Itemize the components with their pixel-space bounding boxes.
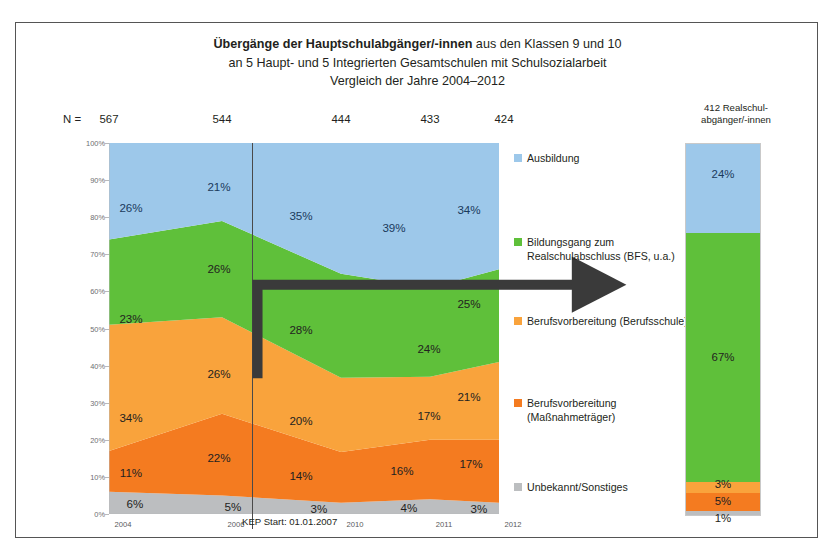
y-tick-mark-10: [105, 477, 109, 478]
area-chart-plot: 100% 90% 80% 70% 60% 50% 40% 30% 20% 10%…: [94, 128, 514, 528]
chart-frame: Übergänge der Hauptschulabgänger/-innen …: [15, 22, 818, 538]
secondary-bar-heading-line-2: abgänger/-innen: [671, 114, 801, 126]
legend-label-massnahmetraeger: Berufsvorbereitung (Maßnahmeträger): [527, 396, 689, 424]
y-tick-20: 20%: [90, 435, 105, 444]
secondary-label-ausbildung: 24%: [686, 168, 760, 180]
value-label-bildungsgang-2004: 23%: [119, 312, 142, 325]
legend-label-unbekannt: Unbekannt/Sonstiges: [527, 480, 628, 494]
n-value-2010: 444: [316, 113, 366, 125]
y-tick-mark-70: [105, 254, 109, 255]
legend-item-bildungsgang[interactable]: Bildungsgang zum Realschulabschluss (BFS…: [514, 235, 689, 263]
y-tick-mark-60: [105, 291, 109, 292]
n-value-2004: 567: [84, 113, 134, 125]
secondary-stacked-bar: 24% 67% 3% 5% 1%: [685, 143, 761, 516]
y-tick-50: 50%: [90, 324, 105, 333]
y-tick-30: 30%: [90, 398, 105, 407]
y-tick-mark-20: [105, 440, 109, 441]
secondary-segment-unbekannt: 1%: [686, 511, 760, 515]
secondary-bar-heading: 412 Realschul- abgänger/-innen: [671, 102, 801, 126]
n-value-2012: 424: [479, 113, 529, 125]
legend-swatch-massnahmetraeger-icon: [514, 399, 522, 407]
x-tick-2012: 2012: [505, 520, 522, 529]
value-label-massnahmetraeger-2004: 11%: [120, 466, 142, 479]
value-label-massnahmetraeger-2006: 22%: [207, 451, 230, 464]
y-tick-mark-100: [105, 143, 109, 144]
value-label-berufsschule-2006: 26%: [207, 367, 230, 380]
secondary-label-bildungsgang: 67%: [686, 351, 760, 363]
y-tick-90: 90%: [90, 176, 105, 185]
legend-label-bildungsgang: Bildungsgang zum Realschulabschluss (BFS…: [527, 235, 689, 263]
legend-label-ausbildung: Ausbildung: [527, 151, 579, 165]
title-line-1-rest: aus den Klassen 9 und 10: [472, 37, 621, 51]
plot-area: 100% 90% 80% 70% 60% 50% 40% 30% 20% 10%…: [109, 143, 499, 514]
kep-start-annotation: KEP Start: 01.01.2007: [242, 516, 337, 527]
y-tick-mark-80: [105, 217, 109, 218]
y-tick-0: 0%: [94, 510, 105, 519]
secondary-label-berufsschule: 3%: [686, 478, 760, 490]
y-tick-mark-90: [105, 180, 109, 181]
y-tick-80: 80%: [90, 213, 105, 222]
legend-label-berufsschule: Berufsvorbereitung (Berufsschule): [527, 314, 688, 328]
value-label-bildungsgang-2006: 26%: [207, 262, 230, 275]
y-tick-mark-0: [105, 514, 109, 515]
x-tick-2011: 2011: [436, 520, 452, 529]
legend-item-berufsschule[interactable]: Berufsvorbereitung (Berufsschule): [514, 314, 688, 328]
n-label: N =: [63, 113, 81, 125]
value-label-unbekannt-2006: 5%: [225, 500, 242, 513]
title-line-1-bold: Übergänge der Hauptschulabgänger/-innen: [213, 37, 472, 51]
y-tick-mark-50: [105, 329, 109, 330]
y-tick-mark-40: [105, 366, 109, 367]
x-tick-2004: 2004: [115, 520, 132, 529]
value-label-unbekannt-2004: 6%: [127, 497, 144, 510]
legend-item-massnahmetraeger[interactable]: Berufsvorbereitung (Maßnahmeträger): [514, 396, 689, 424]
legend-swatch-berufsschule-icon: [514, 317, 522, 325]
title-line-2: an 5 Haupt- und 5 Integrierten Gesamtsch…: [16, 54, 819, 73]
y-tick-mark-30: [105, 403, 109, 404]
secondary-segment-massnahmetraeger: 5%: [686, 493, 760, 512]
value-label-berufsschule-2004: 34%: [119, 411, 142, 424]
y-tick-100: 100%: [86, 139, 105, 148]
y-tick-60: 60%: [90, 287, 105, 296]
legend-swatch-unbekannt-icon: [514, 483, 522, 491]
n-value-2006: 544: [197, 113, 247, 125]
legend-swatch-ausbildung-icon: [514, 154, 522, 162]
secondary-segment-berufsschule: 3%: [686, 482, 760, 493]
secondary-segment-bildungsgang: 67%: [686, 233, 760, 482]
title-line-3: Vergleich der Jahre 2004–2012: [16, 72, 819, 91]
y-tick-70: 70%: [90, 250, 105, 259]
n-value-2011: 433: [405, 113, 455, 125]
secondary-bar-heading-line-1: 412 Realschul-: [671, 102, 801, 114]
legend-swatch-bildungsgang-icon: [514, 238, 522, 246]
x-tick-2010: 2010: [347, 520, 364, 529]
secondary-label-unbekannt: 1%: [686, 512, 760, 524]
secondary-label-massnahmetraeger: 5%: [686, 495, 760, 507]
kep-start-arrow-icon: [252, 146, 642, 517]
secondary-segment-ausbildung: 24%: [686, 144, 760, 233]
chart-title: Übergänge der Hauptschulabgänger/-innen …: [16, 35, 819, 91]
value-label-ausbildung-2006: 21%: [207, 180, 230, 193]
legend-item-ausbildung[interactable]: Ausbildung: [514, 151, 579, 165]
y-tick-10: 10%: [90, 472, 105, 481]
y-tick-40: 40%: [90, 361, 105, 370]
legend-item-unbekannt[interactable]: Unbekannt/Sonstiges: [514, 480, 628, 494]
value-label-ausbildung-2004: 26%: [119, 201, 142, 214]
title-line-1: Übergänge der Hauptschulabgänger/-innen …: [16, 35, 819, 54]
